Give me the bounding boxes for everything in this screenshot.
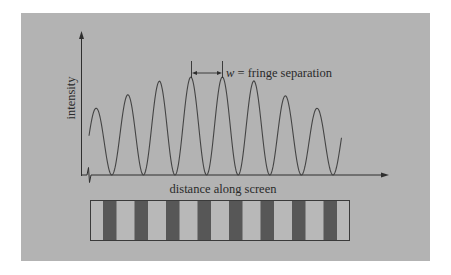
dark-fringe bbox=[229, 201, 243, 240]
dark-fringe bbox=[324, 201, 338, 240]
dark-fringe bbox=[135, 201, 149, 240]
x-axis-label: distance along screen bbox=[170, 182, 277, 197]
x-axis-arrow-icon bbox=[381, 173, 389, 178]
dark-fringe bbox=[103, 201, 117, 240]
arrow-left-icon bbox=[192, 71, 197, 75]
dark-fringe bbox=[292, 201, 306, 240]
intensity-curve bbox=[89, 77, 342, 175]
fringe-separation-label: w = fringe separation bbox=[226, 66, 332, 81]
fringe-separation-marker bbox=[192, 61, 223, 78]
interference-diagram bbox=[0, 0, 451, 275]
dark-fringe bbox=[261, 201, 275, 240]
fringe-separation-text: = fringe separation bbox=[234, 66, 332, 80]
y-axis-arrow-icon bbox=[79, 31, 84, 39]
y-axis bbox=[79, 31, 84, 176]
fringe-pattern bbox=[91, 201, 350, 241]
dark-fringe bbox=[166, 201, 180, 240]
dark-fringe bbox=[198, 201, 212, 240]
arrow-right-icon bbox=[217, 71, 222, 75]
x-axis bbox=[81, 168, 389, 183]
y-axis-label: intensity bbox=[64, 76, 79, 119]
